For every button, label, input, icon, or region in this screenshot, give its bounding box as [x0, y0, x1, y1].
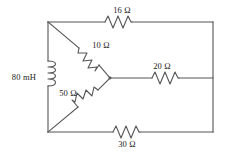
- wire-upper-diagonal-top: [48, 22, 79, 48]
- resistor-icon-16-ohm: [105, 16, 132, 28]
- wire-upper-diagonal-bottom: [99, 65, 110, 78]
- label-middle-resistor: 20 Ω: [153, 61, 171, 71]
- resistor-icon-10-ohm: [78, 48, 99, 71]
- inductor-icon-80-mh: [48, 61, 56, 86]
- wire-lower-diagonal-top: [98, 78, 110, 90]
- resistor-icon-20-ohm: [152, 72, 179, 84]
- label-bottom-resistor: 30 Ω: [118, 139, 136, 149]
- label-top-resistor: 16 Ω: [113, 5, 131, 15]
- label-upper-diagonal-resistor: 10 Ω: [92, 40, 110, 50]
- wire-lower-diagonal-bottom: [48, 107, 78, 132]
- label-lower-diagonal-resistor: 50 Ω: [59, 88, 77, 98]
- resistor-icon-30-ohm: [113, 126, 140, 138]
- circuit-diagram: 16 Ω 80 mH 10 Ω 50 Ω 20 Ω 30 Ω: [0, 0, 225, 156]
- label-left-inductor: 80 mH: [12, 72, 36, 82]
